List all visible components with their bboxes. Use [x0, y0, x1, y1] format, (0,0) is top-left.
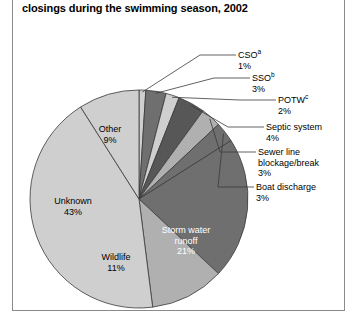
callout-cso-footnote-marker: a	[258, 48, 262, 55]
callout-sso-label: SSOb	[252, 73, 275, 84]
callout-potw-footnote-marker: c	[305, 93, 308, 100]
callout-potw: POTWc 2%	[278, 95, 308, 116]
callout-septic-value: 4%	[266, 133, 322, 144]
slice-label-other-name: Other	[84, 124, 136, 135]
callout-sso-footnote-marker: b	[271, 71, 275, 78]
callout-potw-value: 2%	[278, 106, 308, 117]
slice-label-unknown-name: Unknown	[38, 196, 108, 207]
slice-label-storm-water-name: Storm water	[147, 225, 225, 236]
slice-label-other-value: 9%	[84, 135, 136, 146]
slice-label-storm-water: Storm water runoff 21%	[147, 225, 225, 257]
callout-septic-label: Septic system	[266, 122, 322, 133]
callout-potw-label: POTWc	[278, 95, 308, 106]
leader-line-sso	[156, 78, 250, 93]
callout-boat-label: Boat discharge	[256, 182, 316, 193]
slice-label-storm-water-name2: runoff	[147, 236, 225, 247]
slice-label-other: Other 9%	[84, 124, 136, 145]
chart-page: closings during the swimming season, 200…	[0, 0, 356, 319]
slice-label-wildlife-value: 11%	[86, 263, 146, 274]
callout-cso-label: CSOa	[238, 50, 261, 61]
callout-cso: CSOa 1%	[238, 50, 261, 71]
callout-sewer-label: Sewer line	[258, 147, 319, 158]
slice-label-wildlife-name: Wildlife	[86, 252, 146, 263]
slice-label-unknown-value: 43%	[38, 207, 108, 218]
callout-sewer-label2: blockage/break	[258, 158, 319, 169]
slice-label-wildlife: Wildlife 11%	[86, 252, 146, 273]
callout-cso-value: 1%	[238, 61, 261, 72]
callout-sso-value: 3%	[252, 84, 275, 95]
callout-boat: Boat discharge 3%	[256, 182, 316, 203]
callout-boat-value: 3%	[256, 193, 316, 204]
callout-sewer: Sewer line blockage/break 3%	[258, 147, 319, 179]
slice-label-storm-water-value: 21%	[147, 246, 225, 257]
callout-sewer-value: 3%	[258, 168, 319, 179]
leader-line-cso	[142, 55, 236, 92]
callout-septic: Septic system 4%	[266, 122, 322, 143]
callout-sso: SSOb 3%	[252, 73, 275, 94]
slice-label-unknown: Unknown 43%	[38, 196, 108, 217]
leader-line-potw	[172, 97, 276, 100]
